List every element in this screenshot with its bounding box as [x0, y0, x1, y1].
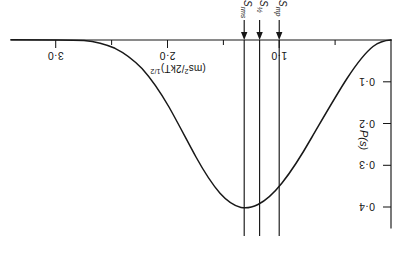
- marker-s-rms-arrow-head: [241, 32, 247, 40]
- marker-s-mp-label-group: Smp: [274, 0, 288, 17]
- x-axis-title-mid: /2kT): [161, 63, 185, 74]
- marker-s-rms-sub: rms: [240, 7, 247, 19]
- marker-s-half-group: [256, 20, 262, 236]
- svg-text:(ms2/2kT)1/2: (ms2/2kT)1/2: [150, 63, 205, 75]
- x-tick-label-1: 1·0: [271, 50, 287, 62]
- y-tick-label-0p4: 0·4: [359, 201, 375, 213]
- x-axis-title: (ms2/2kT)1/2: [150, 63, 205, 75]
- svg-text:Smp: Smp: [274, 0, 288, 17]
- y-tick-label-0p3: 0·3: [359, 159, 375, 171]
- rotated-plot-container: 1·0 2·0 3·0 (ms2/2kT)1/2 0·1 0·2 0·3 0·4…: [0, 0, 402, 276]
- marker-s-mp-sub: mp: [274, 7, 282, 17]
- marker-s-rms-group: [241, 20, 247, 236]
- marker-s-half-arrow-head: [256, 32, 262, 40]
- marker-s-mp-arrow-head: [276, 32, 282, 40]
- plot-svg: 1·0 2·0 3·0 (ms2/2kT)1/2 0·1 0·2 0·3 0·4…: [0, 0, 402, 276]
- x-tick-label-2: 2·0: [159, 50, 175, 62]
- figure-canvas: 1·0 2·0 3·0 (ms2/2kT)1/2 0·1 0·2 0·3 0·4…: [0, 0, 402, 276]
- y-tick-label-0p1: 0·1: [359, 76, 375, 88]
- svg-text:S½: S½: [256, 0, 269, 13]
- marker-s-half-sub: ½: [256, 7, 263, 13]
- marker-s-half-label-group: S½: [256, 0, 269, 13]
- x-axis-title-sup-2: 2: [184, 68, 188, 75]
- y-tick-label-0p2: 0·2: [359, 118, 375, 130]
- x-tick-label-3: 3·0: [48, 50, 64, 62]
- svg-text:Srms: Srms: [240, 0, 253, 19]
- marker-s-rms-label-group: Srms: [240, 0, 253, 19]
- y-axis-title: P(s): [358, 130, 370, 151]
- x-axis-title-open: (ms: [188, 63, 205, 74]
- x-axis-title-sup-half: 1/2: [150, 68, 160, 75]
